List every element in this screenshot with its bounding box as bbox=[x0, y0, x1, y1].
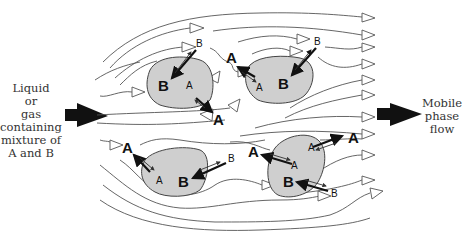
svg-text:A: A bbox=[156, 175, 163, 186]
chromatography-diagram: Liquid or gas containing mixture of A an… bbox=[0, 0, 465, 232]
output-label-line-1: Mobile bbox=[422, 96, 462, 110]
svg-text:A: A bbox=[122, 139, 133, 156]
svg-text:B: B bbox=[178, 173, 189, 190]
svg-text:A: A bbox=[226, 49, 237, 66]
svg-text:B: B bbox=[331, 188, 338, 199]
streamlines bbox=[95, 13, 370, 231]
input-label-line-5: mixture of bbox=[1, 133, 62, 147]
svg-text:A: A bbox=[348, 129, 359, 146]
input-label-line-2: or bbox=[25, 94, 38, 108]
input-label-line-4: containing bbox=[0, 120, 62, 134]
svg-text:B: B bbox=[158, 77, 169, 94]
svg-text:B: B bbox=[283, 173, 294, 190]
input-label-line-6: A and B bbox=[7, 146, 54, 160]
svg-text:B: B bbox=[278, 75, 289, 92]
particle-bottom-left bbox=[142, 148, 208, 197]
svg-text:B: B bbox=[314, 36, 321, 47]
svg-text:A: A bbox=[248, 143, 259, 160]
svg-text:B: B bbox=[228, 153, 235, 164]
particle-top-left bbox=[147, 57, 213, 108]
svg-text:A: A bbox=[186, 80, 193, 91]
output-label-line-2: phase bbox=[425, 109, 460, 123]
svg-text:A: A bbox=[308, 142, 315, 153]
input-label-line-3: gas bbox=[21, 107, 41, 121]
svg-text:A: A bbox=[256, 82, 263, 93]
svg-text:A: A bbox=[291, 160, 298, 171]
svg-text:B: B bbox=[196, 38, 203, 49]
output-label: Mobile phase flow bbox=[422, 96, 462, 136]
input-label: Liquid or gas containing mixture of A an… bbox=[0, 81, 62, 160]
input-label-line-1: Liquid bbox=[12, 81, 50, 95]
svg-text:A: A bbox=[213, 111, 224, 128]
output-label-line-3: flow bbox=[430, 122, 455, 136]
output-flow-arrow-icon bbox=[377, 103, 422, 126]
